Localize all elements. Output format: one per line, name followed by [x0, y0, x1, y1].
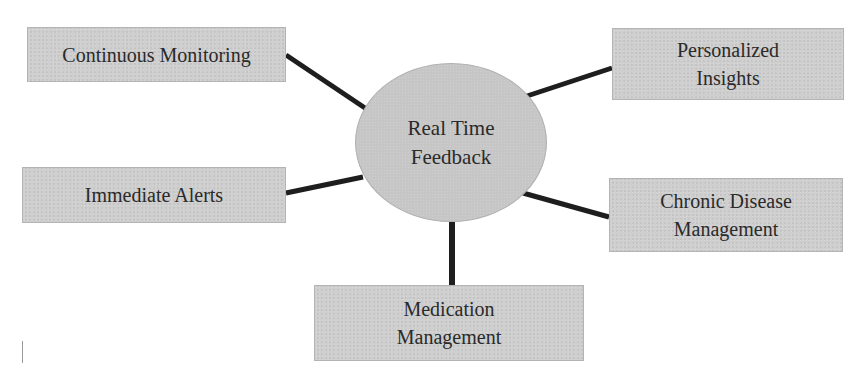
- node-label: Chronic Disease Management: [660, 187, 792, 243]
- center-node-real-time-feedback: Real Time Feedback: [355, 63, 547, 222]
- node-label: Personalized Insights: [677, 36, 779, 92]
- scan-artifact-divider: [22, 341, 23, 363]
- node-chronic-disease-management: Chronic Disease Management: [609, 178, 843, 252]
- connector-chronic-disease-management: [523, 193, 609, 217]
- node-immediate-alerts: Immediate Alerts: [22, 167, 286, 223]
- connector-personalized-insights: [527, 68, 612, 96]
- node-label: Immediate Alerts: [85, 181, 223, 209]
- node-personalized-insights: Personalized Insights: [612, 28, 844, 100]
- node-label: Medication Management: [397, 295, 501, 351]
- node-continuous-monitoring: Continuous Monitoring: [27, 27, 286, 82]
- connector-immediate-alerts: [286, 177, 363, 193]
- center-label: Real Time Feedback: [408, 114, 495, 172]
- node-medication-management: Medication Management: [314, 285, 584, 361]
- connector-continuous-monitoring: [286, 55, 365, 108]
- node-label: Continuous Monitoring: [62, 41, 250, 69]
